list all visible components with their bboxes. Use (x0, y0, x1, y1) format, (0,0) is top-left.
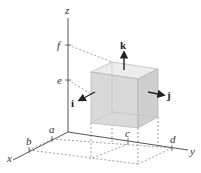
y-label: y (189, 145, 195, 157)
z-label: z (64, 4, 70, 16)
box (91, 62, 158, 128)
x-axis (13, 132, 68, 160)
j-label: j (166, 89, 171, 101)
i-label: i (71, 97, 74, 109)
x-label: x (6, 152, 12, 164)
tick-e: e (57, 74, 62, 86)
box-diagram: z f e a b c d x y k j i (0, 0, 201, 173)
tick-d: d (170, 133, 176, 145)
k-label: k (120, 39, 127, 51)
box-front-face (91, 72, 138, 128)
diagram-canvas: z f e a b c d x y k j i (0, 0, 201, 173)
box-side-face (138, 69, 158, 128)
tick-b: b (26, 135, 32, 147)
tick-c: c (125, 127, 130, 139)
tick-f: f (57, 39, 62, 51)
tick-a: a (49, 123, 55, 135)
